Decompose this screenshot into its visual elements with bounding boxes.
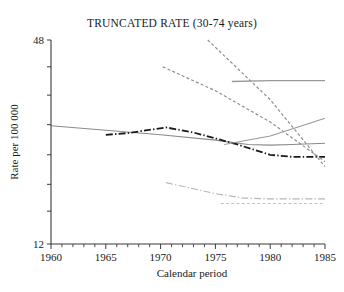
chart-container: TRUNCATED RATE (30-74 years) 19601965197… [0,0,344,292]
x-tick-label: 1960 [40,251,63,263]
series-line-series-c-gray-dashed-steep-upper [208,40,325,167]
series-group [51,40,325,204]
x-axis-tick-labels: 196019651970197519801985 [40,251,337,263]
series-line-series-a-gray-solid-declining [51,126,325,145]
series-line-series-g-light-dashdot-lower [166,183,325,199]
y-axis-ticks [47,40,51,244]
series-line-series-b-black-dashdot [106,127,325,156]
x-axis-ticks [51,244,325,249]
x-tick-label: 1980 [259,251,282,263]
y-axis-tick-labels: 4812 [33,34,45,250]
series-line-series-f-gray-solid-rising [224,118,325,144]
x-tick-label: 1985 [314,251,337,263]
y-tick-label: 12 [33,238,44,250]
x-tick-label: 1975 [204,251,227,263]
x-tick-label: 1965 [95,251,118,263]
truncated-rate-line-chart: TRUNCATED RATE (30-74 years) 19601965197… [0,0,344,292]
x-axis-label: Calendar period [157,267,228,279]
series-line-series-e-gray-solid-flat-top [232,81,325,82]
y-tick-label: 48 [33,34,45,46]
y-axis-label: Rate per 100 000 [8,104,20,180]
chart-title: TRUNCATED RATE (30-74 years) [87,17,257,30]
x-tick-label: 1970 [150,251,173,263]
